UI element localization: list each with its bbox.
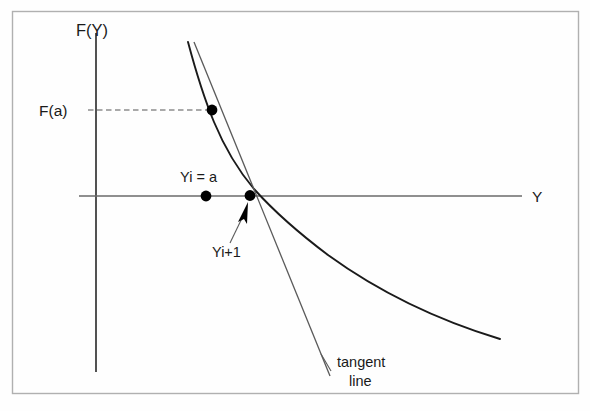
newton-raphson-diagram: F(Y) Y F(a) Yi = a Yi+1 tangent line (0, 0, 590, 411)
point-yi-equals-a (201, 191, 212, 202)
figure-container: F(Y) Y F(a) Yi = a Yi+1 tangent line (0, 0, 590, 411)
x-axis-label: Y (532, 188, 542, 205)
point-f-of-a (207, 105, 218, 116)
f-of-a-label: F(a) (39, 102, 67, 119)
yi-equals-a-label: Yi = a (180, 169, 218, 185)
tangent-label-line1: tangent (337, 354, 385, 370)
point-yi-plus-1 (245, 190, 256, 201)
yi-plus-1-label: Yi+1 (212, 244, 241, 260)
y-axis-label: F(Y) (76, 21, 108, 39)
tangent-label-line2: line (349, 373, 372, 389)
